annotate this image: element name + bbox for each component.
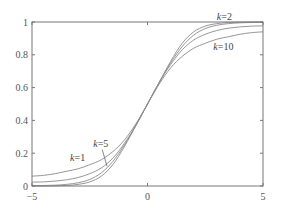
- curve-label-value: =2: [221, 11, 232, 22]
- y-tick-label: 1: [23, 17, 28, 28]
- curve-label: k=1: [70, 152, 85, 163]
- annotations-layer: k=2k=10k=1k=5: [70, 11, 233, 167]
- curve-label-value: =10: [218, 41, 234, 52]
- curve-label: k=2: [217, 11, 232, 22]
- y-tick-label: 0.8: [16, 49, 29, 60]
- x-tick-label: 0: [145, 191, 150, 202]
- leader-line: [102, 150, 107, 167]
- sigmoid-chart: −50500.20.40.60.81 k=2k=10k=1k=5: [0, 0, 282, 209]
- curve-label-value: =1: [75, 152, 86, 163]
- curve-label: k=5: [93, 138, 108, 149]
- curve-label: k=10: [213, 41, 233, 52]
- x-tick-label: 5: [261, 191, 266, 202]
- curve-label-value: =5: [98, 138, 109, 149]
- x-tick-label: −5: [27, 191, 38, 202]
- y-tick-label: 0: [23, 181, 28, 192]
- y-tick-label: 0.6: [16, 82, 29, 93]
- y-tick-label: 0.2: [16, 148, 29, 159]
- y-tick-label: 0.4: [16, 115, 29, 126]
